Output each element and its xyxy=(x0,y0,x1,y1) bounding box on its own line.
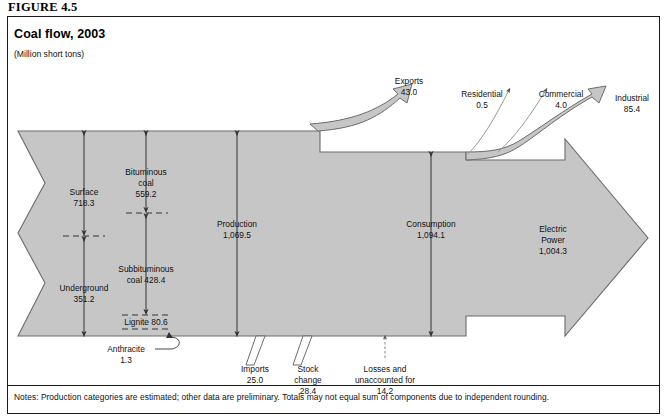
label-commercial-value: 4.0 xyxy=(555,100,567,110)
label-surface-name: Surface xyxy=(70,187,99,197)
label-bituminous-l1: Bituminous xyxy=(125,167,166,177)
label-losses-l1: Losses and xyxy=(364,364,407,374)
label-residential-name: Residential xyxy=(461,89,503,99)
label-electric-l1: Electric xyxy=(539,224,566,234)
coal-flow-sankey-diagram: Surface 718.3 Underground 351.2 Bitumino… xyxy=(0,0,668,420)
label-losses-l2: unaccounted for xyxy=(355,375,415,385)
label-underground-value: 351.2 xyxy=(74,294,95,304)
figure-page: FIGURE 4.5 Coal flow, 2003 (Million shor… xyxy=(0,0,668,420)
label-imports-name: Imports xyxy=(241,364,269,374)
anthracite-leader-line xyxy=(155,337,179,349)
figure-notes: Notes: Production categories are estimat… xyxy=(14,392,549,402)
label-lignite: Lignite 80.6 xyxy=(124,317,168,327)
label-surface-value: 718.3 xyxy=(74,198,95,208)
label-electric-value: 1,004.3 xyxy=(539,246,567,256)
label-production-value: 1,069.5 xyxy=(223,230,251,240)
label-industrial-value: 85.4 xyxy=(624,104,641,114)
exports-flow-arrow xyxy=(310,84,412,131)
label-subbituminous-l1: Subbituminous xyxy=(118,264,173,274)
label-bituminous-value: 559.2 xyxy=(136,189,157,199)
stock-change-inflow-notch xyxy=(293,336,312,365)
label-production-name: Production xyxy=(217,219,257,229)
label-subbituminous-l2: coal 428.4 xyxy=(127,275,166,285)
label-anthracite-value: 1.3 xyxy=(120,355,132,365)
label-consumption-name: Consumption xyxy=(406,219,456,229)
label-imports-value: 25.0 xyxy=(247,375,264,385)
imports-inflow-notch xyxy=(246,336,265,365)
notes-divider xyxy=(8,385,659,386)
label-anthracite-name: Anthracite xyxy=(107,344,145,354)
label-exports-value: 43.0 xyxy=(401,87,418,97)
label-underground-name: Underground xyxy=(60,283,109,293)
label-industrial-name: Industrial xyxy=(615,93,649,103)
label-commercial-name: Commercial xyxy=(539,89,584,99)
label-consumption-value: 1,094.1 xyxy=(417,230,445,240)
label-stock-l1: Stock xyxy=(298,364,320,374)
residential-flow-arrow xyxy=(468,90,509,154)
label-exports-name: Exports xyxy=(395,76,423,86)
label-stock-l2: change xyxy=(294,375,322,385)
label-bituminous-l2: coal xyxy=(138,178,154,188)
label-electric-l2: Power xyxy=(541,235,565,245)
label-residential-value: 0.5 xyxy=(476,100,488,110)
